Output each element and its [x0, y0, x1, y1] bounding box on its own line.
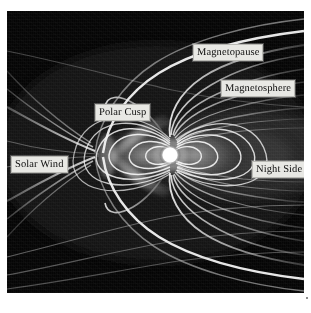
- earth-body: [153, 138, 187, 172]
- scan-artifact-mark: [306, 297, 308, 299]
- label-polar-cusp: Polar Cusp: [95, 104, 150, 121]
- label-night-side: Night Side: [252, 161, 304, 178]
- label-magnetosphere: Magnetosphere: [221, 80, 295, 97]
- label-solar-wind: Solar Wind: [11, 156, 68, 173]
- label-magnetopause: Magnetopause: [193, 44, 263, 61]
- magnetosphere-diagram-canvas: Magnetopause Magnetosphere Polar Cusp So…: [7, 11, 304, 293]
- figure-root: Magnetopause Magnetosphere Polar Cusp So…: [0, 0, 311, 313]
